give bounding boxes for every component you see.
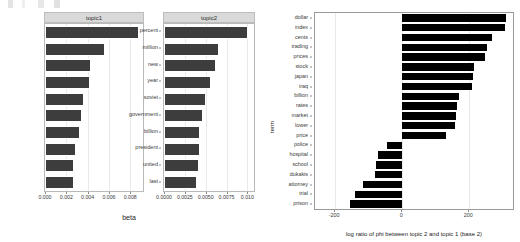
y-tick-label: dukakis <box>290 172 308 177</box>
y-tick-label: united <box>143 162 158 168</box>
x-tick-label: 0.0000 <box>156 195 172 200</box>
x-tick-label: 0.000 <box>39 195 52 200</box>
y-tick-label: lower <box>295 123 308 128</box>
logratio-x-axis: -2000200 <box>314 210 514 222</box>
y-tick <box>310 145 312 146</box>
gridline <box>402 13 403 209</box>
y-tick <box>159 164 161 165</box>
bar <box>164 76 211 89</box>
bar <box>45 143 76 156</box>
topic2-y-axis: percentmillionnewyearsovietgovernmentbil… <box>103 23 161 192</box>
y-tick-label: rates <box>296 103 308 108</box>
x-tick-label: 0.0025 <box>177 195 193 200</box>
x-tick-label: 0.002 <box>60 195 73 200</box>
bar <box>402 132 446 139</box>
bar <box>402 14 505 21</box>
bar <box>45 43 105 56</box>
y-tick-label: dollar <box>295 15 308 20</box>
y-tick-label: market <box>292 113 308 118</box>
facet-topic2: topic2 percentmillionnewyearsovietgovern… <box>163 12 255 208</box>
y-tick-label: year <box>147 79 158 85</box>
topic2-panel <box>163 23 255 192</box>
bar <box>164 43 219 56</box>
x-tick-label: 0.0075 <box>219 195 235 200</box>
bar <box>402 24 504 31</box>
logratio-x-axis-title: log ratio of phi between topic 2 and top… <box>314 231 514 237</box>
topic2-bars <box>164 24 254 191</box>
y-tick <box>159 31 161 32</box>
y-tick-label: percent <box>140 29 158 35</box>
facet-strip-topic1: topic1 <box>44 12 144 23</box>
y-tick <box>310 86 312 87</box>
bar <box>402 34 491 41</box>
gridline <box>335 13 336 209</box>
y-tick <box>159 81 161 82</box>
y-tick-label: trial <box>299 192 308 197</box>
y-tick-label: index <box>295 25 308 30</box>
y-tick-label: president <box>135 146 158 152</box>
bar <box>355 191 403 198</box>
y-tick <box>310 47 312 48</box>
y-tick-label: last <box>149 179 158 185</box>
beta-axis-title: beta <box>0 214 258 221</box>
y-tick-label: police <box>294 143 308 148</box>
y-tick <box>310 57 312 58</box>
y-tick <box>159 114 161 115</box>
y-tick-label: attorney <box>289 182 308 187</box>
x-tick-label: 0.008 <box>124 195 137 200</box>
logratio-y-axis: dollarindexcentstradingpricesstockjapani… <box>258 12 312 210</box>
y-tick <box>310 155 312 156</box>
x-tick-label: 0 <box>400 213 403 218</box>
bar <box>402 122 455 129</box>
y-tick <box>159 131 161 132</box>
y-tick <box>310 96 312 97</box>
bar <box>164 159 199 172</box>
x-tick-label: 0.004 <box>81 195 94 200</box>
facet-strip-topic2: topic2 <box>163 12 255 23</box>
bar <box>164 59 216 72</box>
bar <box>402 63 474 70</box>
bar <box>45 59 91 72</box>
bar <box>45 93 84 106</box>
bar <box>45 176 74 189</box>
y-tick <box>310 66 312 67</box>
y-tick <box>159 181 161 182</box>
bar <box>45 76 90 89</box>
x-tick-label: 200 <box>464 213 473 218</box>
x-tick-label: -200 <box>329 213 340 218</box>
bar <box>363 181 403 188</box>
y-tick <box>310 184 312 185</box>
y-tick-label: japan <box>295 74 308 79</box>
y-tick <box>310 204 312 205</box>
y-tick <box>159 148 161 149</box>
beta-facet-plot: topic1 ipeoplepolicetwoyearsstatenewcour… <box>0 8 258 242</box>
y-tick <box>310 164 312 165</box>
y-tick-label: prison <box>293 201 308 206</box>
y-tick <box>159 98 161 99</box>
bar <box>45 159 74 172</box>
logratio-plot: term dollarindexcentstradingpricesstockj… <box>258 6 520 242</box>
bar <box>402 102 457 109</box>
bar <box>402 53 485 60</box>
bar <box>164 143 200 156</box>
x-tick-label: 0.010 <box>241 195 254 200</box>
y-tick-label: million <box>142 45 158 51</box>
bar <box>45 126 80 139</box>
y-tick-label: government <box>129 112 158 118</box>
y-tick-label: price <box>296 133 308 138</box>
y-tick <box>310 135 312 136</box>
y-tick-label: cents <box>295 35 308 40</box>
logratio-panel <box>314 12 514 210</box>
bar <box>164 176 197 189</box>
bar <box>164 109 203 122</box>
y-tick <box>310 37 312 38</box>
y-tick-label: stock <box>295 64 308 69</box>
bar <box>402 83 472 90</box>
y-tick <box>310 115 312 116</box>
bar <box>402 44 487 51</box>
y-tick <box>310 76 312 77</box>
y-tick-label: soviet <box>144 95 158 101</box>
x-tick-label: 0.0050 <box>198 195 214 200</box>
y-tick-label: billion <box>144 129 158 135</box>
bar <box>164 26 248 39</box>
